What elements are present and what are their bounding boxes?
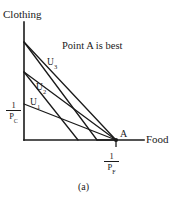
curve-u3 (24, 42, 97, 140)
x-intercept-numerator: 1 (104, 152, 119, 161)
x-intercept-label: 1 PF (104, 152, 119, 174)
point-a-label: A (120, 129, 127, 139)
curve-label-u1-base: U (30, 97, 37, 107)
y-intercept-label: 1 PC (6, 101, 21, 123)
curve-label-u3: U3 (47, 58, 57, 69)
curve-label-u2-subscript: 2 (43, 88, 46, 95)
figure-caption: (a) (78, 182, 89, 192)
x-intercept-denominator-subscript: F (112, 169, 115, 175)
curve-label-u1-subscript: 1 (37, 103, 40, 110)
x-intercept-denominator: PF (104, 163, 119, 174)
y-intercept-denominator: PC (6, 112, 21, 123)
y-axis-label: Clothing (3, 9, 42, 20)
curve-label-u2: U2 (36, 83, 46, 94)
curve-label-u3-base: U (47, 57, 54, 67)
curve-label-u1: U1 (30, 98, 40, 109)
budget-constraint-figure: Clothing Food Point A is best A U3 U2 U1… (0, 0, 178, 199)
y-intercept-numerator: 1 (6, 101, 21, 110)
x-axis-label: Food (146, 134, 169, 145)
y-intercept-denominator-subscript: C (14, 118, 18, 124)
figure-canvas (0, 0, 178, 199)
annotation-point-a-is-best: Point A is best (62, 41, 122, 52)
curve-label-u3-subscript: 3 (54, 63, 57, 70)
curve-label-u2-base: U (36, 82, 43, 92)
